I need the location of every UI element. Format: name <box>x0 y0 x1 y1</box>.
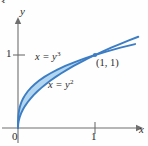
figure-container: 3. y x 1 1 0 x = y3 x = y2 (1, 1) <box>0 0 148 146</box>
curve-label-square-lhs: x <box>48 79 53 90</box>
shaded-region-between-curves <box>18 55 95 128</box>
curve-label-x-equals-y-squared: x = y2 <box>48 80 74 91</box>
curve-label-square-equals: = <box>56 79 62 90</box>
curve-label-x-equals-y-cubed: x = y3 <box>35 52 61 63</box>
curve-label-cubic-lhs: x <box>35 51 40 62</box>
y-axis-arrowhead <box>15 17 21 24</box>
y-axis-tick-label-1: 1 <box>6 48 12 59</box>
curve-label-cubic-equals: = <box>43 51 49 62</box>
y-axis-label: y <box>20 6 25 17</box>
curve-label-cubic-exponent: 3 <box>57 50 61 58</box>
x-axis-label: x <box>139 124 144 135</box>
x-axis-tick-label-1: 1 <box>91 131 97 142</box>
plot-canvas <box>0 0 148 146</box>
origin-label: 0 <box>12 131 18 142</box>
intersection-point-label: (1, 1) <box>96 58 119 69</box>
curve-label-square-exponent: 2 <box>70 78 74 86</box>
